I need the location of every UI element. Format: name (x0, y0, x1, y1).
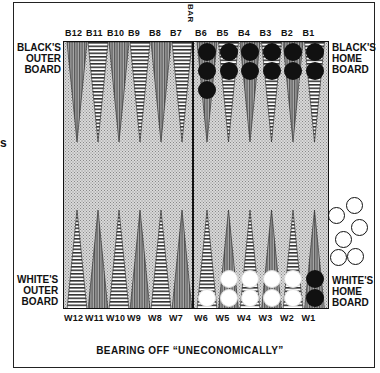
point-w9 (130, 210, 150, 309)
point-label-b2: B2 (281, 28, 293, 38)
point-label-b1: B1 (303, 28, 315, 38)
point-b8 (151, 42, 171, 142)
point-label-b5: B5 (217, 28, 229, 38)
point-label-b9: B9 (128, 28, 140, 38)
point-label-w9: W9 (127, 313, 141, 323)
black-checker (284, 43, 302, 61)
white-checker (263, 289, 281, 307)
point-w10 (109, 210, 129, 309)
point-w11 (88, 210, 108, 309)
white-checker (284, 270, 302, 288)
black-checker (306, 43, 324, 61)
white-checker (284, 289, 302, 307)
point-label-w5: W5 (216, 313, 230, 323)
point-label-w8: W8 (148, 313, 162, 323)
black-checker (198, 81, 216, 99)
backgammon-board (63, 41, 329, 309)
white-checker (241, 270, 259, 288)
point-label-w1: W1 (302, 313, 316, 323)
point-w8 (151, 210, 171, 309)
point-label-w2: W2 (280, 313, 294, 323)
white-checker (198, 289, 216, 307)
cropped-text-fragment: s (0, 136, 7, 150)
black-checker (284, 62, 302, 80)
black-checker (263, 43, 281, 61)
black-checker (306, 289, 324, 307)
point-label-w7: W7 (169, 313, 183, 323)
borne-off-checker (347, 248, 364, 265)
borne-off-checker (346, 197, 363, 214)
white-checker (241, 289, 259, 307)
point-label-b7: B7 (170, 28, 182, 38)
point-w12 (67, 210, 87, 309)
point-label-w6: W6 (194, 313, 208, 323)
bar-divider (192, 42, 194, 308)
point-label-w12: W12 (64, 313, 83, 323)
black-checker (241, 43, 259, 61)
white-checker (263, 270, 281, 288)
point-b11 (88, 42, 108, 142)
black-checker (220, 43, 238, 61)
black-checker (198, 62, 216, 80)
point-b12 (67, 42, 87, 142)
borne-off-checker (328, 207, 345, 224)
black-checker (198, 43, 216, 61)
borne-off-checker (351, 219, 368, 236)
white-checker (220, 270, 238, 288)
point-w7 (172, 210, 192, 309)
point-label-b8: B8 (149, 28, 161, 38)
white-checker (220, 289, 238, 307)
point-label-w3: W3 (259, 313, 273, 323)
borne-off-checker (330, 249, 347, 266)
point-b7 (172, 42, 192, 142)
label-white-home-board: WHITE'SHOMEBOARD (332, 275, 373, 308)
label-white-outer-board: WHITE'SOUTERBOARD (17, 274, 58, 307)
black-checker (263, 62, 281, 80)
black-checker (306, 62, 324, 80)
label-black-outer-board: BLACK'SOUTERBOARD (17, 42, 61, 75)
point-label-b10: B10 (107, 28, 124, 38)
point-label-b6: B6 (195, 28, 207, 38)
bar-label: BAR (186, 4, 195, 23)
point-label-w11: W11 (85, 313, 104, 323)
borne-off-checker (335, 231, 352, 248)
point-b9 (130, 42, 150, 142)
point-label-b11: B11 (86, 28, 103, 38)
point-label-b4: B4 (238, 28, 250, 38)
point-label-w4: W4 (237, 313, 251, 323)
point-label-w10: W10 (106, 313, 125, 323)
black-checker (306, 270, 324, 288)
label-black-home-board: BLACK'SHOMEBOARD (332, 42, 376, 75)
black-checker (241, 62, 259, 80)
black-checker (220, 62, 238, 80)
point-label-b3: B3 (260, 28, 272, 38)
diagram-title: BEARING OFF “UNECONOMICALLY” (0, 345, 380, 356)
point-label-b12: B12 (65, 28, 82, 38)
point-b10 (109, 42, 129, 142)
board-points (64, 42, 329, 309)
